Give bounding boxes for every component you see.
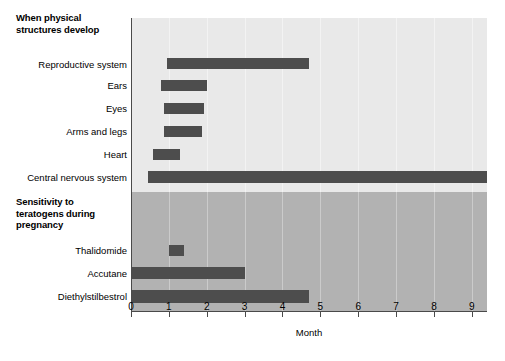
row-label-heart: Heart bbox=[104, 149, 127, 160]
tick-label-month-4: 4 bbox=[272, 301, 292, 313]
tick-label-month-9: 9 bbox=[462, 301, 482, 313]
section-heading-teratogen-sensitivity: Sensitivity to teratogens during pregnan… bbox=[16, 196, 95, 231]
row-label-reproductive-system: Reproductive system bbox=[38, 59, 127, 70]
tick-label-month-1: 1 bbox=[159, 301, 179, 313]
tick-label-month-0: 0 bbox=[121, 301, 141, 313]
gridline-dark-month-9 bbox=[472, 192, 473, 312]
gridline-dark-month-5 bbox=[320, 192, 321, 312]
y-axis-spine bbox=[131, 18, 132, 312]
bar-ears bbox=[161, 80, 206, 91]
plot-area bbox=[131, 18, 487, 312]
tick-label-month-6: 6 bbox=[348, 301, 368, 313]
row-label-ears: Ears bbox=[107, 80, 127, 91]
gridline-dark-month-6 bbox=[358, 192, 359, 312]
row-label-accutane: Accutane bbox=[87, 268, 127, 279]
bar-central-nervous-system bbox=[148, 171, 487, 183]
tick-label-month-8: 8 bbox=[424, 301, 444, 313]
tick-label-month-2: 2 bbox=[197, 301, 217, 313]
gridline-dark-month-7 bbox=[396, 192, 397, 312]
bar-arms-and-legs bbox=[164, 126, 202, 137]
tick-label-month-5: 5 bbox=[310, 301, 330, 313]
bar-heart bbox=[153, 149, 180, 160]
bar-reproductive-system bbox=[167, 58, 309, 69]
gridline-dark-month-8 bbox=[434, 192, 435, 312]
tick-label-month-3: 3 bbox=[235, 301, 255, 313]
tick-label-month-7: 7 bbox=[386, 301, 406, 313]
section-heading-physical-structures: When physical structures develop bbox=[16, 12, 99, 35]
bar-accutane bbox=[131, 267, 245, 279]
row-label-diethylstilbestrol: Diethylstilbestrol bbox=[58, 291, 127, 302]
row-label-arms-and-legs: Arms and legs bbox=[66, 126, 127, 137]
row-label-thalidomide: Thalidomide bbox=[75, 245, 127, 256]
row-label-eyes: Eyes bbox=[106, 103, 127, 114]
x-axis-title: Month bbox=[131, 327, 487, 338]
row-label-central-nervous-system: Central nervous system bbox=[27, 172, 127, 183]
bar-thalidomide bbox=[169, 245, 184, 256]
bar-eyes bbox=[164, 103, 204, 114]
teratogen-timeline-chart: When physical structures develop Sensiti… bbox=[0, 0, 505, 361]
